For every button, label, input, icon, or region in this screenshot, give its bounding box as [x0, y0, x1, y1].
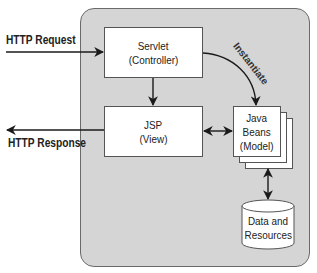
data-and-label: Data and — [245, 214, 292, 228]
data-resources-label: Data and Resources — [242, 214, 294, 242]
resources-label: Resources — [245, 228, 292, 242]
